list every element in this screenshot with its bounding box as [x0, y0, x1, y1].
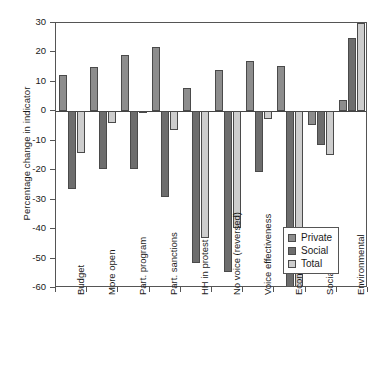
y-axis-tick: -20: [0, 169, 55, 170]
legend-item: Total: [288, 257, 332, 270]
legend-label: Total: [301, 258, 322, 269]
bar: [183, 88, 191, 112]
y-axis-tick-label: -10: [32, 134, 46, 145]
bar: [255, 111, 263, 171]
y-axis-tick-label: -50: [32, 252, 46, 263]
x-axis-category-label: Part. program: [137, 237, 148, 295]
bar: [59, 75, 67, 112]
bar: [264, 111, 272, 118]
y-axis-tick: -40: [0, 228, 55, 229]
legend-label: Social: [301, 245, 328, 256]
bar: [68, 111, 76, 189]
y-axis-tick: -60: [0, 287, 55, 288]
legend-label: Private: [301, 232, 332, 243]
legend-swatch-private: [288, 234, 296, 242]
bar: [215, 70, 223, 111]
x-axis-tick-mark: [367, 287, 368, 292]
x-axis-category-label: Part. sanctions: [168, 232, 179, 295]
bar: [277, 66, 285, 112]
x-axis-tick-mark: [180, 287, 181, 292]
bar: [246, 61, 254, 111]
bar: [201, 111, 209, 238]
bar: [121, 55, 129, 111]
bar: [130, 111, 138, 168]
x-axis-category-label: Environmental: [355, 234, 366, 295]
x-axis-category-label: HH in protest: [199, 240, 210, 295]
y-axis-tick-label: 10: [35, 75, 46, 86]
y-axis-title: Percentage change in indicator: [21, 44, 32, 264]
bar: [90, 67, 98, 111]
bar: [308, 111, 316, 124]
x-axis-tick-mark: [86, 287, 87, 292]
legend-swatch-total: [288, 260, 296, 268]
bar-group: [56, 23, 87, 286]
legend-item: Social: [288, 244, 332, 257]
bar: [99, 111, 107, 168]
x-axis-category-label: More open: [106, 250, 117, 295]
bar: [233, 111, 241, 227]
y-axis-tick: 0: [0, 110, 55, 111]
bar-chart-figure: Percentage change in indicator 3020100-1…: [0, 0, 376, 389]
y-axis-tick-label: 20: [35, 45, 46, 56]
bar: [77, 111, 85, 152]
bar: [348, 38, 356, 112]
x-axis-tick-mark: [55, 287, 56, 292]
bar-group: [87, 23, 118, 286]
bar: [326, 111, 334, 155]
y-axis-tick-label: -20: [32, 163, 46, 174]
x-axis-category-label: Budget: [75, 265, 86, 295]
y-axis-tick-label: -40: [32, 222, 46, 233]
legend-item: Private: [288, 231, 332, 244]
x-axis-tick-mark: [242, 287, 243, 292]
bar: [161, 111, 169, 196]
x-axis-tick-mark: [305, 287, 306, 292]
y-axis-tick-label: -30: [32, 193, 46, 204]
y-axis-tick-label: 30: [35, 16, 46, 27]
bar: [108, 111, 116, 123]
legend-swatch-social: [288, 247, 296, 255]
x-axis-tick-mark: [211, 287, 212, 292]
bar: [170, 111, 178, 130]
x-axis-tick-mark: [273, 287, 274, 292]
x-axis-category-label: Voice effectiveness: [262, 214, 273, 295]
bar: [317, 111, 325, 145]
bar: [339, 100, 347, 112]
y-axis-tick: 20: [0, 51, 55, 52]
y-axis-tick: -30: [0, 199, 55, 200]
chart-legend: PrivateSocialTotal: [283, 227, 339, 274]
y-axis-tick-label: -60: [32, 281, 46, 292]
y-axis-tick: 30: [0, 22, 55, 23]
y-axis-tick: -10: [0, 140, 55, 141]
y-axis-tick: 10: [0, 81, 55, 82]
bar: [152, 47, 160, 112]
x-axis-category-label: No voice (reversed): [231, 212, 242, 295]
bar: [357, 23, 365, 111]
y-axis-tick: -50: [0, 258, 55, 259]
y-axis-tick-label: 0: [41, 104, 46, 115]
x-axis-tick-mark: [117, 287, 118, 292]
bar: [139, 111, 147, 113]
x-axis-tick-mark: [336, 287, 337, 292]
x-axis-tick-mark: [149, 287, 150, 292]
